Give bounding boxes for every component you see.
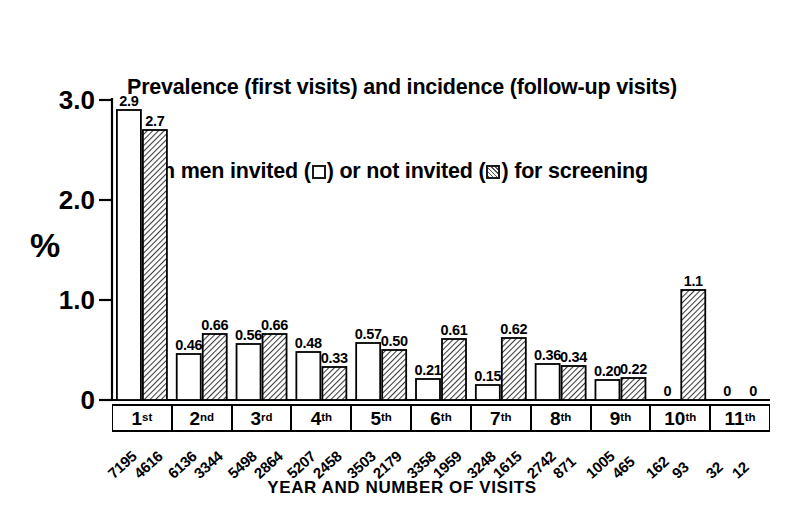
- category-ordinal-suffix: th: [441, 412, 452, 424]
- bar-not-invited-3rd: [263, 334, 287, 400]
- category-ordinal-suffix: nd: [200, 412, 214, 424]
- bar-value-label: 0.50: [376, 334, 412, 349]
- bar-invited-1st: [117, 110, 141, 400]
- chart-figure: Prevalence (first visits) and incidence …: [0, 0, 804, 511]
- bar-value-label: 0.48: [290, 336, 326, 351]
- bar-value-label: 0.33: [316, 351, 352, 366]
- y-axis-tick-label: 0: [25, 387, 95, 413]
- x-axis-category-box: 5th: [351, 404, 411, 432]
- x-axis-category-box: 9th: [591, 404, 651, 432]
- bar-value-label: 0: [735, 384, 771, 399]
- category-ordinal-number: 3: [250, 409, 261, 428]
- x-axis-category-box: 8th: [531, 404, 591, 432]
- category-ordinal-number: 1: [132, 409, 143, 428]
- x-axis-category-box: 7th: [471, 404, 531, 432]
- y-axis-tick-label: 2.0: [25, 187, 95, 213]
- category-ordinal-suffix: th: [321, 412, 332, 424]
- category-ordinal-suffix: th: [381, 412, 392, 424]
- chart-canvas: [0, 0, 804, 511]
- x-axis-category-box: 1st: [112, 404, 172, 432]
- y-axis-tick-label: 3.0: [25, 87, 95, 113]
- x-axis-category-box: 6th: [411, 404, 471, 432]
- bar-value-label: 0.34: [556, 350, 592, 365]
- category-ordinal-number: 5: [370, 409, 381, 428]
- plot-area: [0, 0, 804, 511]
- bar-not-invited-1st: [143, 130, 167, 400]
- bar-invited-3rd: [237, 344, 261, 400]
- bar-invited-2nd: [177, 354, 201, 400]
- bar-invited-9th: [595, 380, 619, 400]
- bar-value-label: 0.61: [436, 323, 472, 338]
- bar-value-label: 0.66: [257, 318, 293, 333]
- x-axis-category-box: 3rd: [232, 404, 292, 432]
- category-ordinal-number: 8: [550, 409, 561, 428]
- bar-value-label: 0.21: [410, 363, 446, 378]
- x-axis-category-box: 4th: [291, 404, 351, 432]
- bar-invited-7th: [476, 385, 500, 400]
- bar-value-label: 0.15: [470, 369, 506, 384]
- category-ordinal-number: 2: [189, 409, 200, 428]
- bar-value-label: 2.7: [137, 114, 173, 129]
- x-axis-category-box: 11th: [710, 404, 770, 432]
- bar-value-label: 0.46: [171, 338, 207, 353]
- category-ordinal-number: 6: [430, 409, 441, 428]
- category-ordinal-suffix: th: [560, 412, 571, 424]
- bar-value-label: 1.1: [675, 274, 711, 289]
- category-ordinal-suffix: th: [745, 412, 756, 424]
- y-axis-tick-label: 1.0: [25, 287, 95, 313]
- category-ordinal-number: 9: [610, 409, 621, 428]
- category-ordinal-number: 11: [725, 409, 745, 428]
- bar-not-invited-8th: [562, 366, 586, 400]
- category-ordinal-suffix: th: [501, 412, 512, 424]
- bar-value-label: 0.62: [496, 322, 532, 337]
- x-axis-category-box: 10th: [650, 404, 710, 432]
- category-ordinal-number: 4: [311, 409, 322, 428]
- bar-value-label: 2.9: [111, 94, 147, 109]
- bar-not-invited-9th: [621, 378, 645, 400]
- bar-value-label: 0.66: [197, 318, 233, 333]
- bar-not-invited-5th: [382, 350, 406, 400]
- category-ordinal-number: 7: [490, 409, 501, 428]
- category-ordinal-suffix: th: [685, 412, 696, 424]
- bar-value-label: 0.22: [615, 362, 651, 377]
- bar-invited-6th: [416, 379, 440, 400]
- x-axis-title: YEAR AND NUMBER OF VISITS: [0, 478, 804, 498]
- category-ordinal-suffix: st: [142, 412, 152, 424]
- bar-invited-8th: [536, 364, 560, 400]
- bar-invited-5th: [356, 343, 380, 400]
- category-ordinal-suffix: rd: [261, 412, 273, 424]
- category-ordinal-number: 10: [664, 409, 685, 428]
- x-axis-category-box: 2nd: [172, 404, 232, 432]
- bar-value-label: 0: [649, 384, 685, 399]
- category-ordinal-suffix: th: [620, 412, 631, 424]
- bar-not-invited-4th: [322, 367, 346, 400]
